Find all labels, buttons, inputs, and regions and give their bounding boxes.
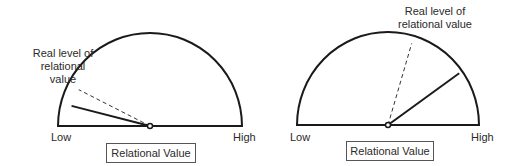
right-high-label: High [471, 131, 494, 144]
left-annotation-line: value [22, 73, 104, 86]
right-low-label: Low [290, 131, 310, 144]
left-high-label: High [233, 131, 256, 144]
left-caption-box: Relational Value [106, 143, 196, 163]
left-low-label: Low [51, 131, 71, 144]
right-annotation-line: relational value [395, 18, 475, 31]
right-annotation-line: Real level of [395, 5, 475, 18]
right-real-value-dashed-line [388, 43, 412, 125]
left-real-value-dashed-line [79, 90, 150, 126]
right-annotation: Real level of relational value [395, 5, 475, 31]
right-gauge [297, 32, 479, 128]
right-pivot [386, 123, 391, 128]
left-annotation: Real level of relational value [22, 47, 104, 86]
left-annotation-line: Real level of [22, 47, 104, 60]
right-perceived-value-needle [388, 73, 459, 125]
left-annotation-line: relational [22, 60, 104, 73]
right-caption-box: Relational Value [346, 141, 434, 161]
left-perceived-value-needle [72, 106, 150, 126]
left-pivot [148, 124, 153, 129]
